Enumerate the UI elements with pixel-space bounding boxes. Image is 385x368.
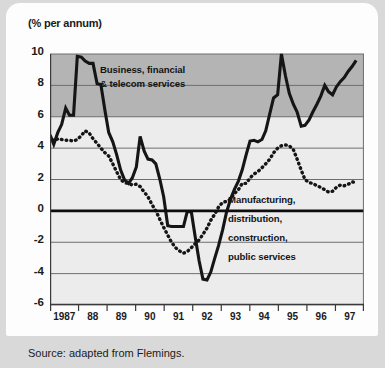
- x-tick-label: 88: [79, 311, 108, 322]
- x-tick-label: 96: [307, 311, 336, 322]
- business-financial-telecom-label: Business, financial & telecom services: [100, 63, 185, 90]
- series-label-line: construction,: [228, 228, 296, 247]
- series-label-line: Business, financial: [100, 63, 185, 77]
- chart-svg: [50, 52, 364, 313]
- y-tick-label: 10: [20, 45, 44, 57]
- series-label-line: public services: [228, 247, 296, 266]
- x-tick-label: 97: [335, 311, 364, 322]
- x-tick-label: 89: [107, 311, 136, 322]
- x-tick-label: 91: [164, 311, 193, 322]
- figure-card: (% per annum) 10 8 6 4 2 0 -2 -4 -6 1987…: [6, 3, 378, 336]
- x-tick-label: 94: [250, 311, 279, 322]
- y-tick-label: 2: [20, 171, 44, 183]
- series-label-line: distribution,: [228, 209, 296, 228]
- y-tick-label: 6: [20, 108, 44, 120]
- series-label-line: Manufacturing,: [228, 190, 296, 209]
- chart-plot-area: [50, 52, 364, 303]
- y-tick-label: 0: [20, 202, 44, 214]
- y-tick-label: 4: [20, 139, 44, 151]
- x-tick-label: 93: [221, 311, 250, 322]
- x-tick-label: 92: [193, 311, 222, 322]
- y-tick-label: -2: [20, 233, 44, 245]
- manufacturing-distribution-label: Manufacturing, distribution, constructio…: [228, 190, 296, 266]
- source-note: Source: adapted from Flemings.: [28, 347, 185, 359]
- y-tick-label: -6: [20, 296, 44, 308]
- y-tick-label: 8: [20, 76, 44, 88]
- y-axis-unit-label: (% per annum): [28, 17, 102, 29]
- x-tick-label: 95: [278, 311, 307, 322]
- series-label-line: & telecom services: [100, 77, 185, 91]
- y-tick-label: -4: [20, 265, 44, 277]
- x-tick-label: 1987: [50, 311, 79, 322]
- x-tick-label: 90: [136, 311, 165, 322]
